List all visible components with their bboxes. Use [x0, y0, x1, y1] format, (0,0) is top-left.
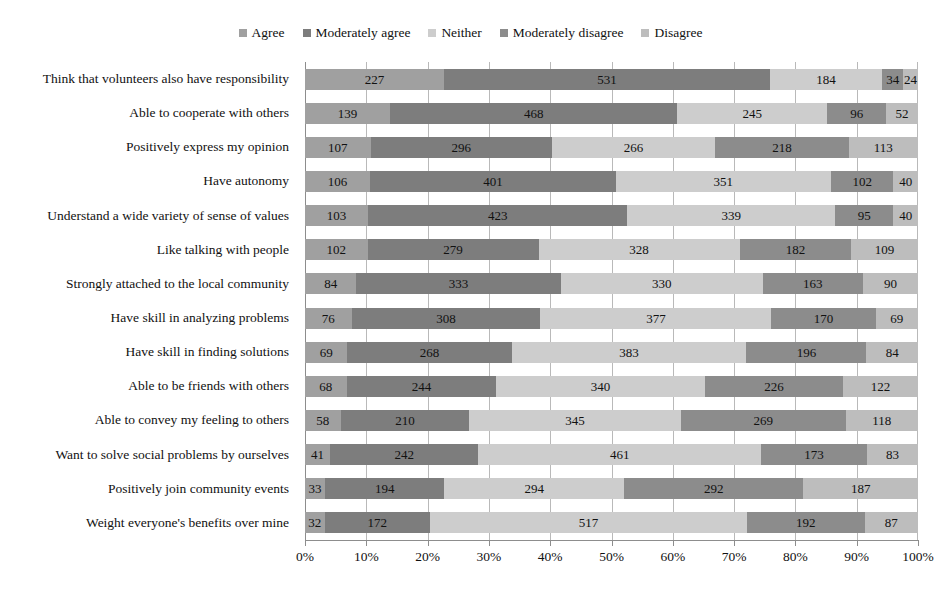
- bar-segment[interactable]: 279: [368, 239, 539, 260]
- legend-label: Moderately agree: [316, 26, 411, 40]
- bar-segment[interactable]: 68: [305, 376, 347, 397]
- bar-segment[interactable]: 34: [882, 69, 903, 90]
- category-label: Want to solve social problems by ourselv…: [0, 438, 297, 472]
- bar-segment[interactable]: 292: [624, 478, 803, 499]
- bar-segment[interactable]: 351: [616, 171, 831, 192]
- bar-segment[interactable]: 196: [746, 342, 866, 363]
- bar-segment[interactable]: 184: [770, 69, 883, 90]
- bar-segment[interactable]: 345: [469, 410, 680, 431]
- bar-segment[interactable]: 461: [478, 444, 761, 465]
- bar-segment[interactable]: 401: [370, 171, 616, 192]
- bar-segment[interactable]: 96: [827, 103, 886, 124]
- bar-segment[interactable]: 328: [539, 239, 740, 260]
- bar-segment-value: 245: [742, 107, 762, 120]
- legend-entry[interactable]: Moderately disagree: [500, 26, 624, 40]
- bar-segment[interactable]: 517: [430, 512, 747, 533]
- bar-segment[interactable]: 122: [843, 376, 918, 397]
- bar-segment[interactable]: 242: [330, 444, 478, 465]
- stacked-bar[interactable]: 2275311843424: [305, 69, 918, 90]
- legend-entry[interactable]: Neither: [428, 26, 481, 40]
- bar-segment[interactable]: 468: [390, 103, 677, 124]
- stacked-bar[interactable]: 33194294292187: [305, 478, 918, 499]
- bar-segment-value: 40: [899, 209, 912, 222]
- bar-segment[interactable]: 113: [849, 137, 918, 158]
- bar-segment-value: 194: [375, 482, 395, 495]
- bar-segment[interactable]: 296: [371, 137, 552, 158]
- bar-segment[interactable]: 330: [561, 273, 763, 294]
- bar-segment[interactable]: 83: [867, 444, 918, 465]
- legend-entry[interactable]: Disagree: [641, 26, 702, 40]
- bar-segment-value: 461: [610, 448, 630, 461]
- bar-segment[interactable]: 109: [851, 239, 918, 260]
- bar-segment[interactable]: 170: [771, 308, 875, 329]
- stacked-bar[interactable]: 3217251719287: [305, 512, 918, 533]
- bar-segment[interactable]: 172: [325, 512, 430, 533]
- bar-segment[interactable]: 226: [705, 376, 844, 397]
- bar-segment[interactable]: 194: [325, 478, 444, 499]
- bar-segment[interactable]: 102: [831, 171, 894, 192]
- stacked-bar[interactable]: 107296266218113: [305, 137, 918, 158]
- bar-segment[interactable]: 192: [747, 512, 865, 533]
- bar-segment[interactable]: 76: [305, 308, 352, 329]
- bar-segment[interactable]: 69: [876, 308, 918, 329]
- bar-segment[interactable]: 118: [846, 410, 918, 431]
- bar-segment[interactable]: 40: [893, 205, 918, 226]
- stacked-bar[interactable]: 102279328182109: [305, 239, 918, 260]
- bar-segment[interactable]: 244: [347, 376, 497, 397]
- stacked-bar[interactable]: 6926838319684: [305, 342, 918, 363]
- bar-segment[interactable]: 87: [865, 512, 918, 533]
- bar-segment[interactable]: 84: [305, 273, 356, 294]
- bar-segment[interactable]: 182: [740, 239, 852, 260]
- bar-segment[interactable]: 531: [444, 69, 770, 90]
- bar-segment[interactable]: 187: [803, 478, 918, 499]
- x-axis-tick-label: 40%: [538, 549, 563, 565]
- bar-segment[interactable]: 32: [305, 512, 325, 533]
- bar-segment[interactable]: 173: [761, 444, 867, 465]
- bar-segment[interactable]: 340: [496, 376, 704, 397]
- bar-segment[interactable]: 41: [305, 444, 330, 465]
- bar-segment[interactable]: 102: [305, 239, 368, 260]
- stacked-bar[interactable]: 1034233399540: [305, 205, 918, 226]
- stacked-bar[interactable]: 58210345269118: [305, 410, 918, 431]
- bar-segment[interactable]: 40: [893, 171, 918, 192]
- stacked-bar[interactable]: 4124246117383: [305, 444, 918, 465]
- bar-segment[interactable]: 69: [305, 342, 347, 363]
- bar-segment[interactable]: 33: [305, 478, 325, 499]
- stacked-bar[interactable]: 1394682459652: [305, 103, 918, 124]
- bar-segment[interactable]: 84: [866, 342, 917, 363]
- x-axis-tick-label: 60%: [660, 549, 685, 565]
- bar-segment[interactable]: 308: [352, 308, 541, 329]
- bar-segment[interactable]: 90: [863, 273, 918, 294]
- stacked-bar[interactable]: 8433333016390: [305, 273, 918, 294]
- x-axis-tick: [918, 540, 919, 546]
- bar-segment[interactable]: 423: [368, 205, 627, 226]
- bar-segment[interactable]: 269: [681, 410, 846, 431]
- bar-segment[interactable]: 107: [305, 137, 371, 158]
- bar-segment[interactable]: 163: [763, 273, 863, 294]
- bar-segment[interactable]: 245: [677, 103, 827, 124]
- bar-segment-value: 95: [858, 209, 871, 222]
- bar-segment[interactable]: 139: [305, 103, 390, 124]
- bar-segment[interactable]: 218: [715, 137, 849, 158]
- bar-segment[interactable]: 210: [341, 410, 470, 431]
- bar-segment[interactable]: 95: [835, 205, 893, 226]
- stacked-bar[interactable]: 10640135110240: [305, 171, 918, 192]
- bar-segment[interactable]: 339: [627, 205, 835, 226]
- bar-segment[interactable]: 268: [347, 342, 511, 363]
- bar-segment[interactable]: 266: [552, 137, 715, 158]
- stacked-bar[interactable]: 68244340226122: [305, 376, 918, 397]
- bar-segment[interactable]: 294: [444, 478, 624, 499]
- stacked-bar[interactable]: 7630837717069: [305, 308, 918, 329]
- bar-segment[interactable]: 227: [305, 69, 444, 90]
- bar-segment[interactable]: 106: [305, 171, 370, 192]
- bar-segment[interactable]: 24: [903, 69, 918, 90]
- bar-segment[interactable]: 377: [540, 308, 771, 329]
- bar-segment[interactable]: 103: [305, 205, 368, 226]
- bar-row: 1394682459652: [305, 96, 918, 130]
- bar-segment[interactable]: 52: [886, 103, 918, 124]
- bar-segment[interactable]: 58: [305, 410, 341, 431]
- legend-entry[interactable]: Agree: [239, 26, 285, 40]
- bar-segment[interactable]: 383: [512, 342, 747, 363]
- legend-entry[interactable]: Moderately agree: [303, 26, 411, 40]
- bar-segment[interactable]: 333: [356, 273, 560, 294]
